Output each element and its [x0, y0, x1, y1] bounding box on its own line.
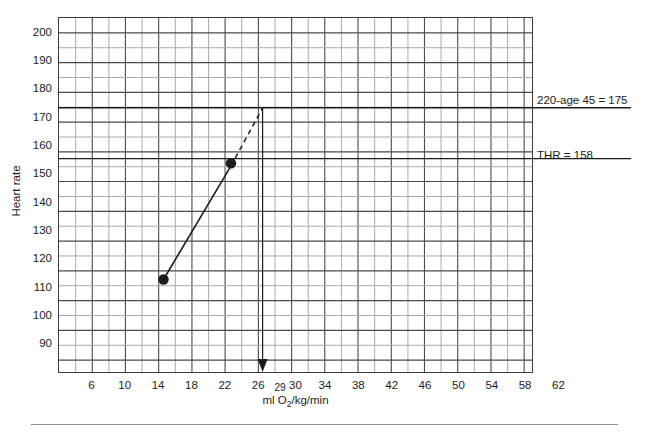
x-tick-42: 42	[385, 379, 398, 391]
x-tick-26: 26	[252, 379, 265, 391]
y-tick-190: 190	[6, 54, 52, 66]
x-tick-58: 58	[519, 379, 532, 391]
grid-lines	[59, 18, 532, 372]
x-tick-6: 6	[88, 379, 94, 391]
y-tick-200: 200	[6, 26, 52, 38]
x-tick-46: 46	[419, 379, 432, 391]
x-axis-title-suffix: /kg/min	[291, 394, 328, 406]
y-tick-90: 90	[6, 337, 52, 349]
y-axis-tick-labels: 200 190 180 170 160 150 140 130 120 110 …	[0, 17, 52, 373]
x-tick-10: 10	[118, 379, 131, 391]
y-axis-title: Heart rate	[10, 151, 22, 231]
x-tick-18: 18	[185, 379, 198, 391]
x-tick-50: 50	[452, 379, 465, 391]
x-tick-29-extra: 29	[274, 382, 285, 394]
x-axis-title-prefix: ml O	[262, 394, 286, 406]
y-tick-180: 180	[6, 82, 52, 94]
x-tick-14: 14	[152, 379, 165, 391]
x-tick-22: 22	[218, 379, 231, 391]
y-tick-100: 100	[6, 309, 52, 321]
y-tick-160: 160	[6, 139, 52, 151]
x-axis-tick-labels: 6 10 14 18 22 26 29 30 34 38 42 46 50 54…	[58, 379, 533, 395]
x-tick-30: 30	[289, 379, 302, 391]
y-tick-120: 120	[6, 252, 52, 264]
x-axis-title: ml O2/kg/min	[58, 394, 533, 406]
x-tick-62: 62	[552, 379, 565, 391]
x-tick-34: 34	[318, 379, 331, 391]
chart-figure: 200 190 180 170 160 150 140 130 120 110 …	[0, 0, 649, 436]
y-tick-170: 170	[6, 111, 52, 123]
x-tick-54: 54	[485, 379, 498, 391]
x-axis-title-subscript: 2	[287, 399, 292, 409]
x-tick-38: 38	[352, 379, 365, 391]
max-hr-annotation-label: 220-age 45 = 175	[537, 94, 627, 106]
footer-divider	[31, 424, 618, 425]
y-tick-110: 110	[6, 281, 52, 293]
thr-annotation-label: THR = 158	[537, 149, 593, 161]
plot-area	[58, 17, 533, 373]
